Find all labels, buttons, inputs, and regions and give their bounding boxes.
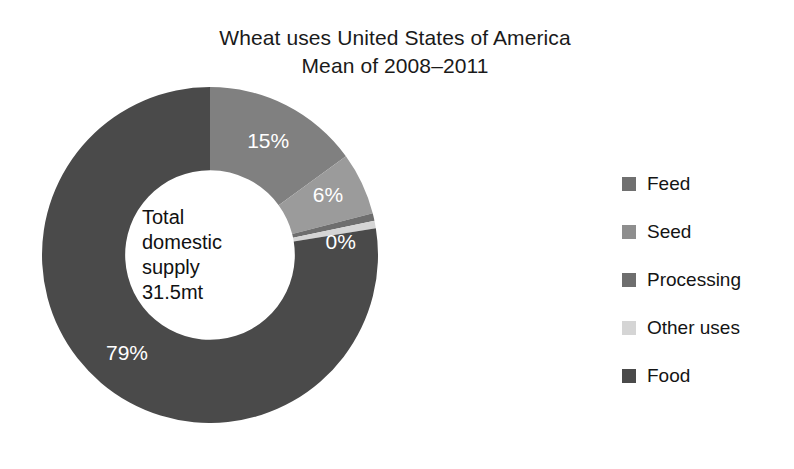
legend-label: Food [647, 365, 690, 387]
legend-label: Processing [647, 269, 741, 291]
donut-slice-label: 6% [313, 183, 343, 206]
chart-title: Wheat uses United States of America Mean… [0, 24, 790, 80]
donut-slice-label: 79% [106, 341, 148, 364]
legend-swatch-icon [622, 225, 636, 239]
donut-slice-label: 0% [326, 230, 356, 253]
donut-chart: 15%6%0%79% [42, 87, 378, 423]
legend-item-food[interactable]: Food [622, 352, 792, 400]
donut-slice-label: 15% [247, 129, 289, 152]
legend-label: Seed [647, 221, 691, 243]
legend-label: Feed [647, 173, 690, 195]
legend-swatch-icon [622, 273, 636, 287]
chart-title-line-1: Wheat uses United States of America [0, 24, 790, 52]
chart-title-line-2: Mean of 2008–2011 [0, 52, 790, 80]
legend-swatch-icon [622, 177, 636, 191]
legend-item-processing[interactable]: Processing [622, 256, 792, 304]
legend-label: Other uses [647, 317, 740, 339]
chart-legend: Feed Seed Processing Other uses Food [622, 160, 792, 400]
legend-swatch-icon [622, 369, 636, 383]
legend-item-other-uses[interactable]: Other uses [622, 304, 792, 352]
legend-item-seed[interactable]: Seed [622, 208, 792, 256]
donut-chart-svg: 15%6%0%79% [42, 87, 378, 423]
donut-slices [42, 87, 378, 423]
legend-swatch-icon [622, 321, 636, 335]
legend-item-feed[interactable]: Feed [622, 160, 792, 208]
